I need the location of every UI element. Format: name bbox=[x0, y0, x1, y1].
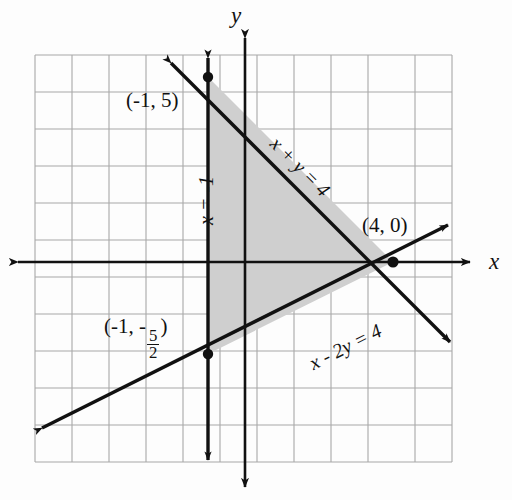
x-axis-label: x bbox=[489, 250, 499, 273]
vertex-top-dot bbox=[203, 72, 213, 82]
vertex-bottom-label-fraction: 52 bbox=[147, 328, 159, 363]
vertex-right-dot bbox=[387, 256, 398, 267]
line-label-x-equals-neg1: x = -1 bbox=[196, 176, 216, 225]
math-graph-figure: y x (-1, 5) (4, 0) (-1, -52) x = -1 x + … bbox=[0, 0, 512, 500]
y-axis-label: y bbox=[231, 4, 241, 27]
vertex-bottom-label: (-1, -52) bbox=[104, 316, 167, 362]
graph-canvas bbox=[0, 0, 512, 500]
vertex-bottom-label-prefix: (-1, - bbox=[104, 314, 146, 338]
fraction-numerator: 5 bbox=[147, 328, 159, 345]
fraction-denominator: 2 bbox=[147, 344, 159, 362]
vertex-bottom-label-suffix: ) bbox=[160, 314, 167, 338]
vertex-right-label: (4, 0) bbox=[362, 215, 408, 236]
vertex-bottom-dot bbox=[203, 349, 213, 359]
vertex-top-label: (-1, 5) bbox=[126, 90, 178, 111]
